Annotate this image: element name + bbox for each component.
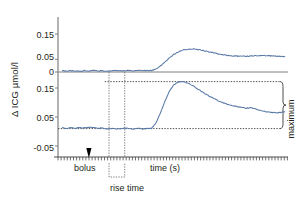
upper-panel-trace bbox=[62, 49, 285, 72]
lower-panel-trace bbox=[62, 81, 285, 129]
plot-canvas bbox=[0, 0, 308, 198]
maximum-brace bbox=[280, 82, 286, 129]
rise-time-bracket bbox=[109, 163, 125, 177]
icg-dilution-chart: Δ ICG µmol/l 0.15 0.05 0 0.15 0.05 -0.05… bbox=[0, 0, 308, 198]
